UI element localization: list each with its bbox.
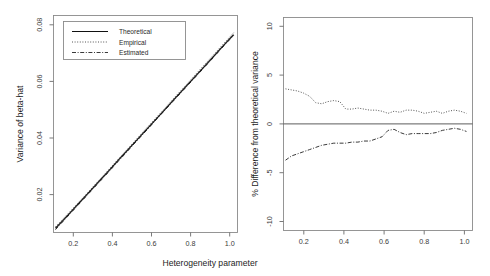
left-xtick-label-2: 0.6 xyxy=(147,239,157,248)
right-y-axis-title: % Difference from theoretical variance xyxy=(250,51,260,197)
right-series-estimated xyxy=(286,128,467,160)
right-series-empirical xyxy=(286,89,467,114)
left-x-axis: 0.2 0.4 0.6 0.8 1.0 xyxy=(68,233,234,249)
right-xtick-label-1: 0.4 xyxy=(339,237,349,246)
left-xtick-label-3: 0.8 xyxy=(186,239,196,248)
right-ytick-label-4: -10 xyxy=(265,216,274,226)
legend-label-estimated: Estimated xyxy=(119,49,149,56)
left-series-estimated xyxy=(55,36,233,230)
left-x-axis-title: Heterogeneity parameter xyxy=(162,258,257,268)
left-xtick-label-4: 1.0 xyxy=(225,239,235,248)
legend: Theoretical Empirical Estimated xyxy=(64,22,186,60)
right-xtick-label-4: 1.0 xyxy=(459,237,469,246)
right-panel: 10 5 0 -5 -10 0.2 0.4 0.6 0.8 1.0 % Dif xyxy=(250,18,473,247)
right-y-axis: 10 5 0 -5 -10 xyxy=(265,22,284,226)
left-xtick-label-0: 0.2 xyxy=(68,239,78,248)
right-xtick-label-3: 0.8 xyxy=(419,237,429,246)
right-ytick-label-0: 10 xyxy=(265,22,274,30)
right-series-group xyxy=(286,89,467,160)
left-ytick-label-1: 0.04 xyxy=(35,131,44,145)
legend-label-empirical: Empirical xyxy=(119,39,147,47)
right-xtick-label-0: 0.2 xyxy=(299,237,309,246)
right-ytick-label-1: 5 xyxy=(265,73,274,77)
left-ytick-label-2: 0.06 xyxy=(35,74,44,88)
left-series-theoretical xyxy=(55,35,233,229)
two-panel-plot: 0.02 0.04 0.06 0.08 0.2 0.4 0.6 0.8 1.0 … xyxy=(0,0,490,276)
legend-label-theoretical: Theoretical xyxy=(119,28,152,35)
left-ytick-label-0: 0.02 xyxy=(35,188,44,202)
left-y-axis: 0.02 0.04 0.06 0.08 xyxy=(35,18,54,202)
left-ytick-label-3: 0.08 xyxy=(35,18,44,32)
right-ytick-label-2: 0 xyxy=(265,122,274,126)
left-series-group xyxy=(55,33,233,230)
left-y-axis-title: Variance of beta-hat xyxy=(15,85,25,162)
right-ytick-label-3: -5 xyxy=(265,169,274,175)
left-series-empirical xyxy=(55,33,233,227)
right-x-axis: 0.2 0.4 0.6 0.8 1.0 xyxy=(299,231,470,247)
left-xtick-label-1: 0.4 xyxy=(107,239,117,248)
right-xtick-label-2: 0.6 xyxy=(379,237,389,246)
figure-container: 0.02 0.04 0.06 0.08 0.2 0.4 0.6 0.8 1.0 … xyxy=(0,0,490,276)
left-panel: 0.02 0.04 0.06 0.08 0.2 0.4 0.6 0.8 1.0 … xyxy=(15,16,258,269)
